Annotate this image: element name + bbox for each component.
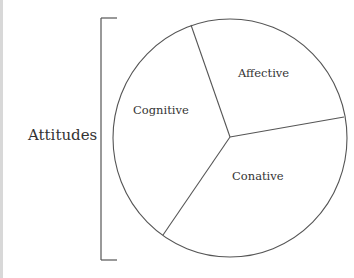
segment-label-affective: Affective xyxy=(237,66,289,80)
divider-top xyxy=(191,25,230,137)
segment-label-conative: Conative xyxy=(232,169,284,183)
segment-label-cognitive: Cognitive xyxy=(133,103,189,117)
group-label: Attitudes xyxy=(27,126,97,144)
divider-bottom xyxy=(163,137,230,235)
divider-right xyxy=(230,117,344,137)
bracket xyxy=(101,18,117,260)
attitude-circle xyxy=(113,19,347,257)
segment-dividers xyxy=(163,25,344,235)
attitudes-diagram: Attitudes Affective Cognitive Conative xyxy=(0,0,354,278)
